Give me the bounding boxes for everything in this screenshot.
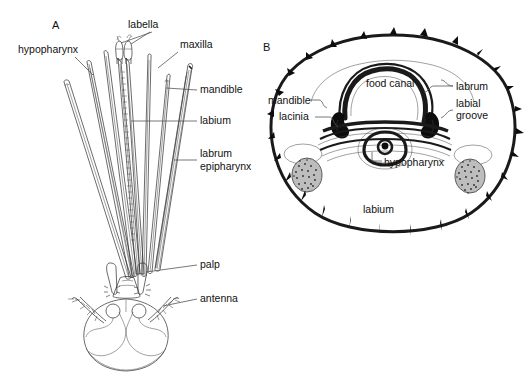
label-labella: labella (128, 18, 159, 30)
label-palp: palp (200, 258, 220, 270)
panel-b-drawing (267, 27, 524, 236)
label-hypopharynx-a: hypopharynx (18, 43, 79, 55)
anatomy-figure: A B labella hypopharynx maxilla mandible… (0, 0, 527, 389)
antenna-right (148, 297, 180, 322)
label-hypopharynx-b: hypopharynx (384, 156, 445, 168)
stylet-hypopharynx (64, 80, 131, 279)
figure-root: A B labella hypopharynx maxilla mandible… (0, 0, 527, 389)
label-labrum-b: labrum (456, 80, 488, 92)
label-mandible-b: mandible (268, 94, 311, 106)
label-maxilla: maxilla (180, 38, 213, 50)
label-labrum-a: labrum (200, 147, 232, 159)
label-food-canal: food canal (366, 77, 414, 89)
panel-a-drawing (64, 32, 197, 371)
label-mandible-a: mandible (200, 83, 243, 95)
stylet-labrum-epipharynx-right (155, 64, 193, 272)
label-labium-a: labium (200, 114, 231, 126)
labium-outer-wall (267, 27, 524, 236)
panel-letter-b: B (263, 41, 270, 53)
palp-left (104, 263, 120, 297)
labella-lobes (116, 35, 132, 64)
head-capsule (84, 299, 168, 371)
panel-letter-a: A (52, 19, 60, 31)
label-epipharynx-a: epipharynx (200, 160, 252, 172)
label-lacinia: lacinia (279, 110, 309, 122)
stylet-maxilla-right (142, 54, 151, 277)
label-antenna: antenna (200, 292, 238, 304)
antenna-left (68, 297, 106, 323)
label-labial-groove-line2: groove (456, 109, 488, 121)
label-labium-b: labium (363, 203, 394, 215)
label-labial-groove-line1: labial (456, 97, 481, 109)
stippled-body-right (455, 159, 485, 194)
stippled-body-left (292, 158, 322, 193)
